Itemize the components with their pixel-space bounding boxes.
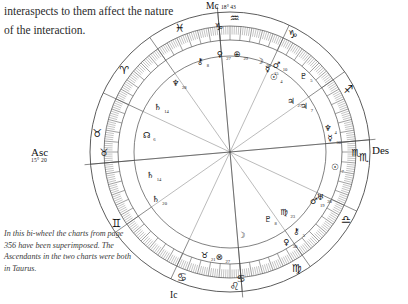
planet-degree-earth: 29 — [243, 56, 248, 61]
planet-glyph-uranus: ♅ — [317, 192, 325, 202]
planet-glyph-sun-2: ☉ — [331, 162, 339, 172]
angle-glyph-capricorn: ♑ — [215, 21, 224, 32]
planet-degree-virgo-pt: 23 — [291, 214, 296, 219]
planet-degree-mars: 10 — [283, 67, 288, 72]
planet-glyph-part-of-fortune: ⊗ — [215, 252, 222, 262]
midheaven-degree: 18° 43 — [221, 4, 236, 10]
planet-degree-uranus: 20 — [327, 199, 332, 204]
planet-glyph-chiron-2: ⚷ — [293, 226, 299, 236]
planet-glyph-pluto: ♇ — [300, 71, 308, 81]
planet-glyph-mars: ♂ — [272, 60, 280, 70]
planet-glyph-venus-2: ♀ — [283, 237, 289, 247]
imum-coeli-label: Ic — [170, 290, 177, 300]
planet-glyph-chiron: ⚷ — [197, 56, 203, 66]
angle-glyph-taurus: ♉ — [100, 147, 109, 158]
midheaven-text: Mc — [206, 1, 219, 11]
planet-degree-ascendant-node: 6 — [153, 137, 156, 142]
planet-glyph-virgo-pt: ♍ — [280, 207, 288, 217]
planet-degree-chiron-2: 5 — [303, 233, 306, 238]
planet-glyph-mars-2: ♂ — [310, 196, 318, 206]
planet-glyph-pluto-2: ♇ — [264, 214, 272, 224]
planet-glyph-saturn: ♄ — [154, 102, 162, 112]
planet-glyph-earth: ⊕ — [233, 49, 240, 59]
planet-degree-part-of-fortune: 27 — [225, 259, 230, 264]
planet-glyph-ascendant-node: ☊ — [143, 130, 151, 140]
zodiac-glyph-capricorn: ♑ — [288, 28, 298, 41]
planet-glyph-neptune-2: ♆ — [324, 123, 332, 133]
angle-glyph-scorpio: ♏ — [352, 147, 361, 158]
zodiac-glyph-gemini: ♊ — [111, 217, 121, 230]
zodiac-glyph-sagittarius: ♐ — [343, 83, 353, 96]
zodiac-glyph-taurus: ♉ — [92, 127, 102, 140]
imum-coeli-text: Ic — [170, 290, 177, 300]
planet-degree-mars-2: 19 — [320, 203, 325, 208]
planet-degree-sun-2: 7 — [341, 169, 344, 174]
descendant-text: Des — [372, 144, 389, 156]
planet-glyph-moon: ☽ — [238, 230, 246, 240]
planet-degree-saturn-3: 14 — [157, 177, 162, 182]
planet-degree-venus-2: 30 — [293, 244, 298, 249]
planet-degree-sun: 4 — [280, 79, 283, 84]
planet-glyph-jupiter: ♃ — [287, 96, 295, 106]
ascendant-degree: 15° 20 — [31, 157, 48, 163]
zodiac-glyph-libra: ♎ — [341, 213, 351, 226]
wheel-svg: ♓♈♉♊♋♌♍♎♏♐♑♒♄14♆28☊6⚷8♀27⊕29☽26☿15☉4♂10♇… — [82, 4, 378, 300]
planet-degree-chiron: 8 — [207, 63, 210, 68]
planet-glyph-neptune: ♆ — [172, 78, 180, 88]
zodiac-glyph-aries: ♈ — [119, 64, 129, 77]
planet-glyph-taurus-pt: ♉ — [201, 250, 209, 260]
planet-glyph-saturn-3: ♄ — [146, 170, 154, 180]
planet-degree-pluto: 5 — [310, 78, 313, 83]
midheaven-label: Mc 18° 43 — [206, 1, 236, 11]
planet-degree-mercury-2: 30 — [336, 140, 341, 145]
planet-degree-pluto-2: 8 — [275, 221, 278, 226]
planet-glyph-moon-2: ☽ — [256, 56, 264, 66]
planet-degree-neptune-2: 4 — [334, 130, 337, 135]
angle-glyph-cancer: ♋ — [236, 273, 245, 284]
zodiac-glyph-pisces: ♓ — [175, 22, 185, 35]
zodiac-glyph-virgo: ♍ — [292, 262, 302, 275]
zodiac-glyph-cancer: ♋ — [177, 271, 187, 284]
planet-degree-venus: 27 — [226, 56, 231, 61]
planet-degree-saturn-2: 20 — [162, 201, 167, 206]
astrology-biwheel: ♓♈♉♊♋♌♍♎♏♐♑♒♄14♆28☊6⚷8♀27⊕29☽26☿15☉4♂10♇… — [82, 4, 378, 300]
planet-degree-saturn: 14 — [164, 109, 169, 114]
planet-glyph-saturn-2: ♄ — [152, 194, 160, 204]
planet-glyph-sun: ☉ — [270, 72, 278, 82]
descendant-label: Des — [372, 144, 389, 156]
zodiac-glyph-aquarius: ♒ — [230, 12, 240, 25]
planet-glyph-jupiter-2: ♃ — [300, 101, 308, 111]
planet-degree-jupiter-2: 7 — [311, 108, 314, 113]
ascendant-label: Asc 15° 20 — [31, 146, 48, 163]
planet-glyph-mercury-2: ☿ — [327, 133, 332, 143]
planet-degree-neptune: 28 — [182, 85, 187, 90]
